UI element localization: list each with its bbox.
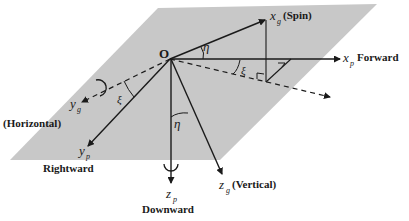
zp-symbol: z xyxy=(165,186,171,201)
angle-eta-top: η xyxy=(203,39,209,54)
xp-subscript: p xyxy=(349,59,354,68)
yp-label: Rightward xyxy=(43,162,94,174)
yg-symbol: y xyxy=(68,96,76,111)
xg-label: (Spin) xyxy=(283,9,312,22)
zg-label: (Vertical) xyxy=(232,178,277,191)
zg-symbol: z xyxy=(218,177,224,192)
yp-subscript: p xyxy=(85,152,90,161)
xp-label: Forward xyxy=(357,51,399,63)
yp-symbol: y xyxy=(77,143,85,158)
zp-label: Downward xyxy=(142,203,194,215)
zg-subscript: g xyxy=(226,186,230,195)
xg-subscript: g xyxy=(277,17,281,26)
angle-xi-left: ξ xyxy=(117,93,122,106)
yg-label: (Horizontal) xyxy=(3,117,61,130)
reference-plane xyxy=(10,4,377,160)
xg-symbol: x xyxy=(269,8,276,23)
yg-subscript: g xyxy=(77,105,81,114)
origin-label: O xyxy=(159,46,169,61)
axis-diagram: O η ξ ξ η x g (Spin) x p Forward y g (Ho… xyxy=(0,0,409,221)
angle-xi-right: ξ xyxy=(241,64,246,77)
xp-symbol: x xyxy=(342,50,349,65)
angle-eta-bottom: η xyxy=(174,116,180,131)
